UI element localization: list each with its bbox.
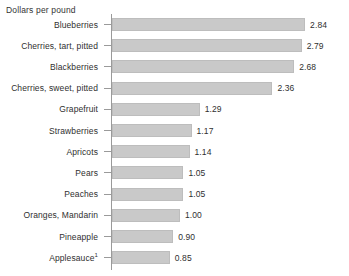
axis-tick (104, 24, 111, 25)
bar (112, 60, 294, 73)
bar-value-label: 1.05 (188, 189, 205, 199)
bar-row: Pears1.05 (0, 162, 349, 183)
category-label: Oranges, Mandarin (24, 210, 98, 220)
bar (112, 124, 192, 137)
axis-tick (104, 172, 111, 173)
category-label: Pineapple (59, 232, 98, 242)
category-label: Apricots (66, 147, 98, 157)
bar (112, 166, 183, 179)
category-label: Peaches (64, 189, 98, 199)
bar (112, 188, 183, 201)
plot-area: Blueberries2.84Cherries, tart, pitted2.7… (0, 14, 349, 272)
bar-row: Grapefruit1.29 (0, 99, 349, 120)
bar-row: Peaches1.05 (0, 184, 349, 205)
bar-value-label: 2.68 (299, 62, 316, 72)
category-label: Cherries, tart, pitted (21, 41, 98, 51)
axis-tick (104, 66, 111, 67)
bar (112, 82, 272, 95)
bar (112, 251, 170, 264)
category-label: Grapefruit (59, 104, 98, 114)
bar (112, 230, 173, 243)
axis-tick (104, 194, 111, 195)
category-label: Applesauce1 (49, 253, 98, 263)
bar-value-label: 2.84 (310, 20, 327, 30)
category-label: Cherries, sweet, pitted (11, 83, 98, 93)
bar-row: Oranges, Mandarin1.00 (0, 205, 349, 226)
bar-row: Strawberries1.17 (0, 120, 349, 141)
axis-tick (104, 215, 111, 216)
bar (112, 39, 302, 52)
bar (112, 103, 200, 116)
bar-value-label: 2.79 (307, 41, 324, 51)
category-label: Blackberries (50, 62, 98, 72)
axis-tick (104, 109, 111, 110)
bar (112, 209, 180, 222)
bar-row: Pineapple0.90 (0, 226, 349, 247)
axis-tick (104, 45, 111, 46)
bar (112, 145, 190, 158)
bar-value-label: 1.00 (185, 210, 202, 220)
footnote-marker: 1 (95, 252, 98, 258)
bar-row: Cherries, tart, pitted2.79 (0, 35, 349, 56)
bar-value-label: 1.14 (195, 147, 212, 157)
bar-value-label: 2.36 (277, 83, 294, 93)
category-label: Pears (75, 168, 98, 178)
bar-value-label: 0.85 (175, 253, 192, 263)
bar-value-label: 0.90 (178, 232, 195, 242)
bar-row: Blackberries2.68 (0, 56, 349, 77)
axis-tick (104, 257, 111, 258)
bar (112, 18, 305, 31)
bar-row: Cherries, sweet, pitted2.36 (0, 78, 349, 99)
axis-tick (104, 130, 111, 131)
axis-tick (104, 151, 111, 152)
axis-tick (104, 236, 111, 237)
bar-value-label: 1.17 (197, 126, 214, 136)
category-label: Blueberries (54, 20, 98, 30)
bar-value-label: 1.29 (205, 104, 222, 114)
category-label: Strawberries (49, 126, 98, 136)
axis-tick (104, 88, 111, 89)
bar-row: Applesauce10.85 (0, 247, 349, 268)
bar-row: Apricots1.14 (0, 141, 349, 162)
bar-row: Blueberries2.84 (0, 14, 349, 35)
bar-value-label: 1.05 (188, 168, 205, 178)
bar-chart: Dollars per pound Blueberries2.84Cherrie… (0, 0, 349, 276)
